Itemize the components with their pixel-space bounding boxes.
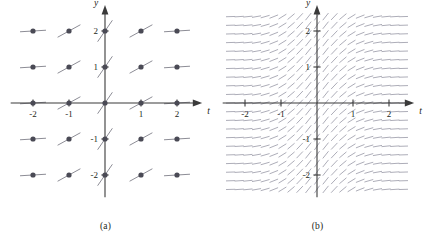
- field-segment: [364, 50, 373, 53]
- field-segment: [270, 41, 279, 44]
- field-segment: [243, 85, 252, 86]
- field-segment: [339, 14, 346, 20]
- field-segment: [235, 68, 244, 69]
- field-segment: [323, 56, 329, 63]
- panel-a-caption: (a): [0, 221, 211, 231]
- field-segment: [390, 42, 399, 43]
- field-segment: [323, 91, 329, 98]
- field-segment: [390, 94, 399, 95]
- field-segment: [331, 169, 337, 176]
- field-segment: [331, 160, 337, 167]
- field-segment: [323, 39, 329, 46]
- field-segment: [261, 15, 270, 18]
- field-segment: [373, 59, 382, 61]
- field-segment: [235, 120, 244, 121]
- field-segment: [323, 73, 329, 80]
- field-segment: [373, 85, 382, 87]
- lattice-point: [102, 136, 107, 141]
- field-segment: [364, 171, 373, 174]
- field-segment: [235, 172, 244, 173]
- field-segment: [297, 22, 303, 29]
- y-tick-label: -1: [91, 134, 99, 144]
- figure-direction-field: -2-11221-1-2ty (a) -2-11221-1-2ty (b): [0, 0, 423, 233]
- field-segment: [243, 146, 252, 147]
- x-axis-label: t: [419, 106, 422, 116]
- field-segment: [356, 127, 365, 130]
- field-segment: [270, 75, 279, 78]
- field-segment: [270, 127, 279, 130]
- field-segment: [235, 59, 244, 60]
- field-segment: [356, 41, 365, 44]
- field-segment: [348, 83, 356, 88]
- field-segment: [390, 129, 399, 130]
- field-segment: [279, 57, 287, 62]
- field-segment: [348, 135, 356, 140]
- field-segment: [348, 57, 356, 62]
- field-segment: [252, 16, 261, 18]
- field-segment: [373, 42, 382, 44]
- field-segment: [348, 40, 356, 45]
- lattice-point: [30, 136, 35, 141]
- field-segment: [373, 94, 382, 96]
- field-segment: [323, 160, 329, 167]
- field-segment: [331, 22, 337, 29]
- field-segment: [261, 76, 270, 79]
- panel-b-plot: -2-11221-1-2ty: [212, 0, 423, 205]
- y-tick-label: 2: [306, 26, 311, 36]
- field-segment: [382, 154, 391, 155]
- field-segment: [356, 93, 365, 96]
- field-segment: [390, 25, 399, 26]
- field-segment: [270, 179, 279, 182]
- field-segment: [305, 117, 311, 124]
- field-segment: [261, 67, 270, 70]
- field-segment: [235, 189, 244, 190]
- field-segment: [243, 94, 252, 95]
- field-segment: [279, 66, 287, 71]
- field-segment: [356, 119, 365, 122]
- field-segment: [297, 13, 303, 20]
- field-segment: [364, 33, 373, 36]
- field-segment: [339, 91, 346, 97]
- field-segment: [356, 179, 365, 182]
- field-segment: [390, 85, 399, 86]
- field-segment: [373, 128, 382, 130]
- field-segment: [270, 84, 279, 87]
- field-segment: [297, 65, 303, 72]
- field-segment: [373, 16, 382, 18]
- field-segment: [297, 186, 303, 193]
- field-segment: [288, 14, 295, 20]
- panel-a-svg: -2-11221-1-2ty: [0, 0, 211, 205]
- field-segment: [339, 83, 346, 89]
- field-segment: [243, 180, 252, 181]
- y-tick-label: -1: [303, 134, 311, 144]
- field-segment: [270, 15, 279, 18]
- x-tick-label: 1: [351, 109, 356, 119]
- lattice-point: [102, 64, 107, 69]
- field-segment: [390, 180, 399, 181]
- field-segment: [356, 136, 365, 139]
- field-segment: [243, 189, 252, 190]
- field-segment: [356, 49, 365, 52]
- field-segment: [243, 25, 252, 26]
- field-segment: [261, 110, 270, 113]
- field-segment: [279, 75, 287, 80]
- field-segment: [305, 13, 311, 20]
- lattice-point: [138, 28, 143, 33]
- field-segment: [305, 91, 311, 98]
- field-segment: [348, 92, 356, 97]
- field-segment: [279, 161, 287, 166]
- field-segment: [261, 119, 270, 122]
- field-segment: [339, 135, 346, 141]
- field-segment: [364, 67, 373, 70]
- field-segment: [331, 177, 337, 184]
- field-segment: [356, 110, 365, 113]
- field-segment: [243, 77, 252, 78]
- field-segment: [356, 24, 365, 27]
- field-segment: [243, 33, 252, 34]
- field-segment: [382, 128, 391, 129]
- field-segment: [270, 119, 279, 122]
- field-segment: [270, 67, 279, 70]
- field-segment: [252, 33, 261, 35]
- field-segment: [323, 48, 329, 55]
- field-segment: [288, 109, 295, 115]
